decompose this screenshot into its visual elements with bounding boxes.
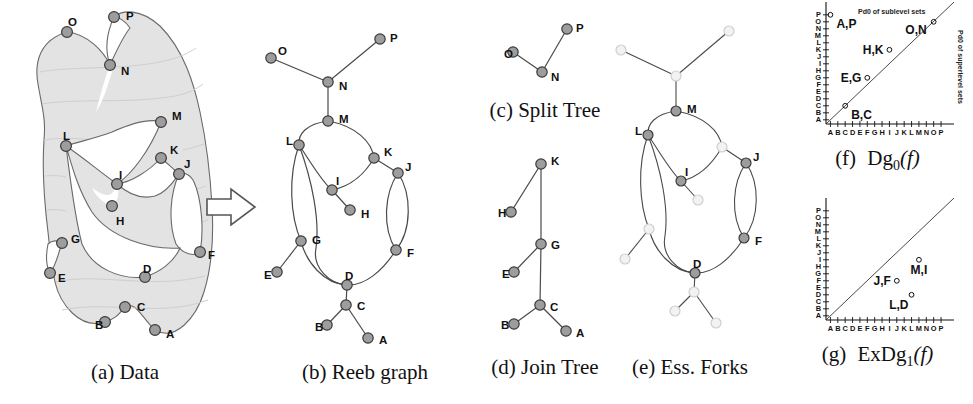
- graph-node-j: [741, 158, 751, 168]
- graph-node-h: [107, 201, 118, 212]
- panel-e-nodes: MLJIFD: [616, 26, 762, 328]
- graph-node-b: [670, 306, 680, 316]
- panel-essential-forks: MLJIFD: [600, 0, 780, 355]
- graph-node-c: [341, 300, 351, 310]
- caption-g-main: ExDg: [857, 342, 906, 366]
- graph-node-n: [105, 60, 116, 71]
- point-label-b-c: B,C: [851, 108, 872, 122]
- caption-c-prefix: (c): [490, 98, 513, 122]
- node-label-b: B: [95, 319, 103, 331]
- node-label-i: I: [336, 175, 339, 187]
- x-tick-label-k: K: [902, 324, 908, 333]
- x-tick-label-k: K: [902, 128, 908, 137]
- graph-node-l: [61, 141, 72, 152]
- annotation-sublevel: Pd0 of sublevel sets: [858, 8, 925, 15]
- caption-f-main: Dg: [867, 146, 893, 170]
- node-label-n: N: [339, 80, 347, 92]
- x-tick-label-n: N: [924, 128, 929, 137]
- node-label-c: C: [550, 301, 558, 313]
- node-label-h: H: [116, 215, 124, 227]
- x-tick-label-i: I: [888, 128, 890, 137]
- caption-e-text: Ess. Forks: [661, 355, 749, 379]
- graph-node-g: [57, 238, 68, 249]
- node-label-p: P: [576, 22, 584, 34]
- node-label-o: O: [68, 16, 77, 28]
- panel-data: PONMLKJIHGFEDCBA: [0, 0, 250, 360]
- x-tick-label-n: N: [924, 324, 929, 333]
- point-label-m-i: M,I: [911, 263, 928, 277]
- node-label-k: K: [384, 146, 393, 158]
- node-label-j: J: [405, 161, 411, 173]
- node-label-h: H: [361, 208, 369, 220]
- x-tick-label-h: H: [879, 128, 884, 137]
- node-label-a: A: [166, 328, 174, 340]
- graph-node-j: [174, 169, 185, 180]
- panel-reeb-graph: PONMLKJIHGFEDCBA: [250, 0, 480, 360]
- node-label-f: F: [755, 235, 762, 247]
- graph-node-p: [109, 12, 120, 23]
- x-tick-label-o: O: [931, 324, 937, 333]
- node-label-h: H: [498, 207, 506, 219]
- node-label-n: N: [551, 71, 559, 83]
- x-tick-label-i: I: [888, 324, 890, 333]
- graph-node-k: [717, 142, 727, 152]
- node-label-e: E: [264, 269, 272, 281]
- graph-node-e: [45, 268, 56, 279]
- node-label-l: L: [63, 130, 70, 142]
- panel-join-tree: KHGECBA: [480, 140, 610, 355]
- graph-node-l: [294, 140, 304, 150]
- graph-node-b: [322, 320, 332, 330]
- caption-b-prefix: (b): [302, 360, 327, 384]
- graph-node-j: [393, 168, 403, 178]
- node-label-m: M: [339, 113, 349, 125]
- node-label-g: G: [71, 233, 80, 245]
- node-label-c: C: [137, 301, 145, 313]
- point-label-h-k: H,K: [863, 43, 884, 57]
- graph-node-a: [363, 333, 373, 343]
- point-label-e-g: E,G: [841, 71, 862, 85]
- points-group: A,PH,KE,GB,CO,N: [828, 12, 936, 121]
- node-label-f: F: [407, 247, 414, 259]
- caption-d: (d) Join Tree: [475, 355, 615, 380]
- node-label-o: O: [504, 48, 513, 60]
- node-label-k: K: [551, 155, 560, 167]
- node-label-l: L: [286, 135, 293, 147]
- x-tick-label-g: G: [872, 324, 878, 333]
- graph-node-p: [724, 26, 734, 36]
- graph-node-c: [535, 300, 545, 310]
- node-label-j: J: [753, 151, 759, 163]
- node-label-d: D: [693, 258, 701, 270]
- caption-g-prefix: (g): [822, 342, 847, 366]
- graph-node-e: [620, 254, 630, 264]
- x-tick-label-d: D: [850, 128, 856, 137]
- graph-node-n: [537, 67, 547, 77]
- x-tick-label-d: D: [850, 324, 856, 333]
- caption-c: (c) Split Tree: [475, 98, 615, 123]
- data-point-h-k: [887, 47, 892, 52]
- x-tick-label-j: J: [895, 324, 899, 333]
- split-tree-edges: [513, 29, 567, 72]
- data-point-l-d: [909, 292, 914, 297]
- x-tick-label-a: A: [828, 324, 834, 333]
- graph-node-g: [296, 236, 306, 246]
- graph-node-b: [509, 319, 519, 329]
- graph-node-c: [689, 287, 699, 297]
- node-label-f: F: [208, 249, 215, 261]
- x-tick-label-c: C: [843, 128, 849, 137]
- x-tick-label-o: O: [931, 128, 937, 137]
- x-tick-label-c: C: [843, 324, 849, 333]
- x-tick-label-f: F: [865, 128, 870, 137]
- graph-node-o: [616, 45, 626, 55]
- node-label-c: C: [357, 300, 365, 312]
- graph-node-p: [562, 24, 572, 34]
- caption-e: (e) Ess. Forks: [600, 355, 780, 380]
- graph-node-o: [62, 27, 73, 38]
- x-tick-label-m: M: [916, 324, 922, 333]
- caption-f-sub: 0: [893, 158, 900, 173]
- points-group: M,IJ,FL,D: [873, 257, 927, 311]
- graph-node-e: [272, 267, 282, 277]
- graph-node-c: [120, 302, 131, 313]
- graph-node-k: [369, 153, 379, 163]
- node-label-a: A: [576, 327, 584, 339]
- annotation-superlevel: Pd0 of superlevel sets: [956, 30, 964, 104]
